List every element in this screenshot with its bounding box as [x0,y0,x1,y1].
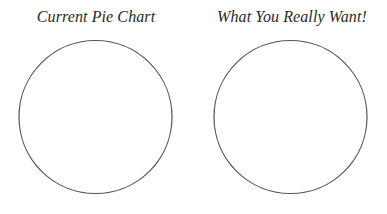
what-you-really-want-circle [214,41,367,194]
current-pie-chart-circle [19,41,172,194]
pie-charts-canvas [0,0,387,214]
